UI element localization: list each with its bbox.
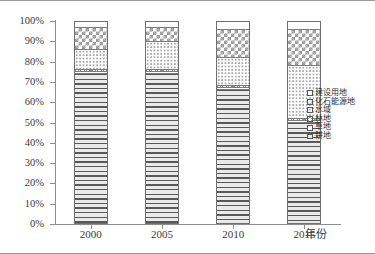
chart-legend: 建设用地化石能源地水域林地草地耕地 <box>307 89 355 141</box>
y-axis-tick <box>50 224 55 225</box>
y-axis-tick-label: 80% <box>0 56 44 67</box>
y-axis-tick <box>50 21 55 22</box>
x-axis-tick-label: 2005 <box>151 229 173 240</box>
x-axis-title: 年份 <box>305 229 327 240</box>
bar-segment <box>146 28 178 42</box>
bar-segment <box>75 50 107 70</box>
y-axis-tick-label: 30% <box>0 158 44 169</box>
y-axis-line <box>55 20 56 225</box>
y-axis-tick-label: 70% <box>0 77 44 88</box>
y-axis-tick-label: 50% <box>0 117 44 128</box>
bar-segment <box>75 28 107 50</box>
bar-segment <box>217 22 249 30</box>
y-axis-tick-label: 20% <box>0 178 44 189</box>
y-axis-tick-label: 100% <box>0 16 44 27</box>
bar-segment <box>217 30 249 58</box>
legend-swatch-icon <box>307 99 313 105</box>
bar-segment <box>217 90 249 223</box>
bar-segment <box>288 30 320 66</box>
y-axis-tick <box>50 163 55 164</box>
y-axis-tick <box>50 143 55 144</box>
y-axis-tick <box>50 62 55 63</box>
x-axis-line <box>55 224 341 225</box>
x-axis-tick-label: 2010 <box>222 229 244 240</box>
y-axis-tick-label: 60% <box>0 97 44 108</box>
stacked-bar <box>216 21 250 224</box>
legend-swatch-icon <box>307 90 313 96</box>
legend-swatch-icon <box>307 133 313 139</box>
y-axis-tick <box>50 41 55 42</box>
y-axis-tick <box>50 82 55 83</box>
chart-figure: 0%10%20%30%40%50%60%70%80%90%100% 200020… <box>0 0 375 254</box>
legend-swatch-icon <box>307 125 313 131</box>
legend-swatch-icon <box>307 116 313 122</box>
y-axis-tick <box>50 183 55 184</box>
legend-item: 耕地 <box>307 132 355 141</box>
bar-segment <box>75 74 107 223</box>
y-axis-tick-label: 40% <box>0 138 44 149</box>
legend-label: 耕地 <box>315 132 331 141</box>
y-axis-tick-label: 90% <box>0 36 44 47</box>
y-axis-tick-label: 10% <box>0 198 44 209</box>
bar-segment <box>146 74 178 223</box>
stacked-bar <box>145 21 179 224</box>
x-axis-tick-label: 2000 <box>80 229 102 240</box>
bar-segment <box>288 22 320 30</box>
y-axis-tick <box>50 204 55 205</box>
bar-segment <box>217 58 249 86</box>
stacked-bar <box>74 21 108 224</box>
y-axis-tick-label: 0% <box>0 219 44 230</box>
legend-swatch-icon <box>307 107 313 113</box>
bar-segment <box>146 42 178 70</box>
y-axis-tick <box>50 123 55 124</box>
y-axis-tick <box>50 102 55 103</box>
